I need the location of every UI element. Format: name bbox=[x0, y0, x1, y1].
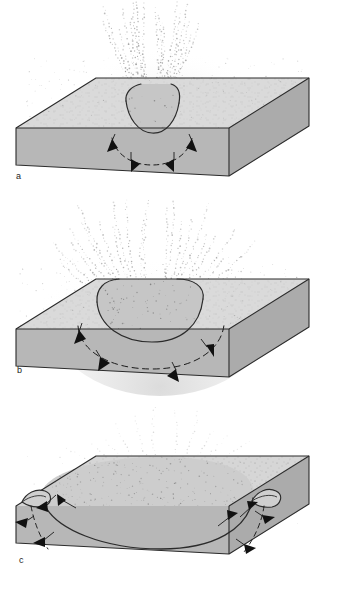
ejecta-particle bbox=[85, 223, 86, 224]
ejecta-particle bbox=[115, 241, 117, 243]
ejecta-particle bbox=[156, 44, 157, 45]
ejecta-particle bbox=[103, 24, 105, 26]
ejecta-particle bbox=[160, 25, 161, 26]
ejecta-particle bbox=[127, 447, 128, 448]
ejecta-particle bbox=[136, 4, 138, 6]
ejecta-particle bbox=[136, 431, 137, 432]
ejecta-particle bbox=[138, 73, 139, 74]
ejecta-particle bbox=[73, 234, 74, 235]
ejecta-particle bbox=[136, 71, 137, 72]
ejecta-particle bbox=[204, 214, 205, 215]
ejecta-particle bbox=[155, 454, 156, 455]
ejecta-particle bbox=[105, 30, 106, 31]
ejecta-particle bbox=[173, 36, 174, 37]
ejecta-particle bbox=[216, 266, 217, 267]
ejecta-particle bbox=[81, 222, 82, 223]
ejecta-particle bbox=[232, 264, 233, 265]
ejecta-particle bbox=[143, 30, 144, 31]
ejecta-particle bbox=[173, 76, 174, 77]
ejecta-particle bbox=[108, 247, 109, 248]
ejecta-particle bbox=[83, 274, 85, 276]
ejecta-particle bbox=[113, 266, 114, 267]
ejecta-particle bbox=[179, 231, 180, 232]
ejecta-particle bbox=[154, 450, 155, 451]
ejecta-particle bbox=[208, 250, 210, 252]
ejecta-particle bbox=[191, 229, 192, 230]
ejecta-particle bbox=[186, 452, 188, 454]
ejecta-particle bbox=[88, 280, 89, 281]
ejecta-particle bbox=[144, 229, 145, 230]
ejecta-particle bbox=[143, 22, 144, 23]
ejecta-particle bbox=[72, 232, 74, 234]
ejecta-particle bbox=[127, 217, 128, 219]
ejecta-particle bbox=[127, 265, 128, 266]
ejecta-particle bbox=[186, 37, 187, 38]
ejecta-particle bbox=[148, 200, 149, 201]
ejecta-particle bbox=[69, 271, 70, 272]
ejecta-particle bbox=[168, 60, 170, 62]
ejecta-particle bbox=[179, 245, 181, 247]
ejecta-particle bbox=[161, 35, 162, 36]
ejecta-particle bbox=[113, 211, 114, 212]
ejecta-particle bbox=[191, 221, 193, 223]
ejecta-particle bbox=[219, 263, 220, 264]
ejecta-particle bbox=[196, 415, 197, 416]
ejecta-particle bbox=[175, 440, 176, 441]
ejecta-particle bbox=[114, 205, 116, 207]
ejecta-particle bbox=[201, 448, 203, 450]
ejecta-particle bbox=[185, 10, 187, 12]
ejecta-particle bbox=[177, 259, 178, 260]
ejecta-particle bbox=[136, 7, 138, 9]
ejecta-particle bbox=[175, 452, 176, 453]
ejecta-particle bbox=[180, 238, 182, 240]
ejecta-particle bbox=[170, 245, 171, 246]
ejecta-particle bbox=[174, 273, 176, 275]
ejecta-particle bbox=[143, 26, 144, 27]
ejecta-particle bbox=[185, 17, 186, 18]
ejecta-particle bbox=[125, 203, 126, 204]
ejecta-particle bbox=[145, 210, 146, 211]
ejecta-particle bbox=[123, 18, 124, 19]
ejecta-particle bbox=[125, 71, 126, 72]
ejecta-particle bbox=[173, 204, 174, 205]
ejecta-particle bbox=[161, 48, 162, 49]
ejecta-particle bbox=[133, 9, 134, 10]
ejecta-particle bbox=[107, 19, 108, 20]
ejecta-particle bbox=[97, 448, 98, 449]
ejecta-particle bbox=[122, 248, 123, 249]
ejecta-particle bbox=[152, 447, 153, 448]
ejecta-particle bbox=[144, 233, 145, 234]
panel-b-illustration bbox=[0, 199, 339, 398]
ejecta-particle bbox=[166, 221, 168, 223]
ejecta-particle bbox=[135, 38, 136, 39]
ejecta-particle bbox=[122, 9, 123, 10]
ejecta-particle bbox=[157, 51, 158, 52]
ejecta-particle bbox=[187, 4, 189, 6]
ejecta-particle bbox=[159, 29, 161, 31]
ejecta-particle bbox=[193, 246, 195, 248]
ejecta-particle bbox=[170, 67, 171, 68]
ejecta-particle bbox=[144, 262, 145, 263]
ejecta-particle bbox=[91, 262, 93, 264]
ejecta-particle bbox=[131, 32, 132, 33]
ejecta-particle bbox=[163, 57, 164, 58]
ejecta-particle bbox=[143, 33, 145, 35]
ejecta-particle bbox=[131, 54, 132, 55]
ejecta-particle bbox=[176, 54, 177, 55]
ejecta-particle bbox=[176, 51, 178, 53]
ejecta-particle bbox=[164, 36, 165, 37]
ejecta-particle bbox=[145, 67, 146, 68]
ejecta-particle bbox=[223, 438, 224, 439]
ejecta-particle bbox=[184, 13, 186, 15]
ejecta-particle bbox=[197, 420, 198, 421]
ejecta-particle bbox=[136, 2, 137, 3]
ejecta-particle bbox=[66, 448, 67, 449]
ejecta-particle bbox=[143, 46, 145, 48]
ejecta-particle bbox=[166, 245, 167, 246]
ejecta-particle bbox=[108, 35, 110, 37]
ejecta-particle bbox=[181, 67, 182, 68]
ejecta-particle bbox=[142, 59, 143, 60]
ejecta-particle bbox=[141, 265, 142, 266]
ejecta-particle bbox=[175, 449, 176, 450]
ejecta-particle bbox=[195, 35, 196, 36]
